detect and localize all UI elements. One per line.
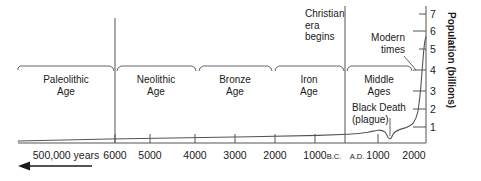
- timescale-arrow-icon: [18, 162, 92, 171]
- timescale-arrow-layer: [0, 0, 481, 181]
- population-history-chart: Paleolithic Age Neolithic Age Bronze Age…: [0, 0, 481, 181]
